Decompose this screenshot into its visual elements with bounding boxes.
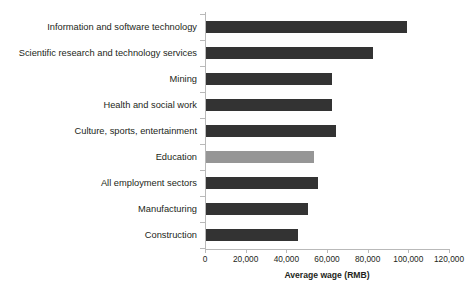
bar: [206, 47, 373, 59]
value-tick-label: 60,000: [314, 254, 339, 264]
bar-row: Education: [0, 144, 471, 170]
bar-row: Scientific research and technology servi…: [0, 40, 471, 66]
bar: [206, 21, 407, 33]
clipped-title-remnant: [0, 0, 471, 6]
value-tick-mark: [246, 249, 247, 253]
value-axis: 020,00040,00060,00080,000100,000120,000 …: [0, 249, 471, 288]
value-tick-label: 100,000: [393, 254, 423, 264]
bar-category-label: Information and software technology: [47, 14, 197, 40]
bar-row: Information and software technology: [0, 14, 471, 40]
bar-row: Manufacturing: [0, 196, 471, 222]
bar-category-label: Health and social work: [103, 92, 197, 118]
value-tick-mark: [368, 249, 369, 253]
bar-category-label: Mining: [170, 66, 197, 92]
value-tick-label: 40,000: [274, 254, 299, 264]
bar-row: Culture, sports, entertainment: [0, 118, 471, 144]
value-tick-mark: [205, 249, 206, 253]
bar: [206, 151, 314, 163]
value-tick-mark: [408, 249, 409, 253]
plot-area: Information and software technologyScien…: [0, 12, 471, 252]
bar-category-label: Education: [156, 144, 197, 170]
value-tick-label: 0: [203, 254, 208, 264]
bar-category-label: Manufacturing: [138, 196, 197, 222]
value-tick-mark: [449, 249, 450, 253]
bar: [206, 203, 308, 215]
value-tick-label: 20,000: [233, 254, 258, 264]
bar-chart-figure: Information and software technologyScien…: [0, 0, 471, 288]
bar-row: Mining: [0, 66, 471, 92]
bar: [206, 125, 336, 137]
value-tick-mark: [327, 249, 328, 253]
bar-row: All employment sectors: [0, 170, 471, 196]
bar-row: Construction: [0, 222, 471, 248]
bar-category-label: Culture, sports, entertainment: [75, 118, 197, 144]
bar-category-label: Scientific research and technology servi…: [19, 40, 197, 66]
bar-row: Health and social work: [0, 92, 471, 118]
value-tick-label: 120,000: [434, 254, 464, 264]
bar: [206, 177, 318, 189]
value-axis-title: Average wage (RMB): [205, 270, 449, 280]
bar-category-label: All employment sectors: [101, 170, 197, 196]
value-tick-mark: [286, 249, 287, 253]
value-tick-label: 80,000: [355, 254, 380, 264]
bar: [206, 73, 332, 85]
bar: [206, 229, 298, 241]
bar-category-label: Construction: [145, 222, 197, 248]
bar: [206, 99, 332, 111]
